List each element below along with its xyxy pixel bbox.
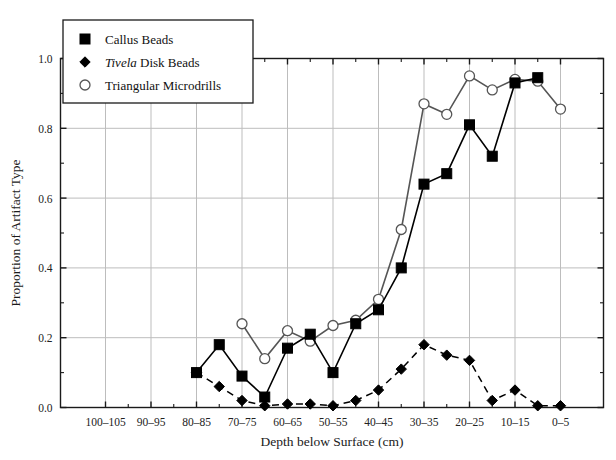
x-tick-label: 10–15 — [501, 416, 530, 428]
data-point-circle — [487, 85, 497, 95]
data-point-diamond — [464, 355, 474, 365]
y-axis: 0.00.20.40.60.81.0 — [38, 53, 603, 414]
data-point-square — [305, 329, 315, 339]
y-tick-label: 1.0 — [38, 53, 53, 65]
x-tick-label: 100–105 — [85, 416, 126, 428]
data-point-diamond — [533, 401, 543, 411]
legend-label: Tivela Disk Beads — [105, 55, 200, 70]
data-point-circle — [465, 71, 475, 81]
data-point-square — [283, 343, 293, 353]
data-point-square — [533, 73, 543, 83]
x-tick-label: 80–85 — [182, 416, 211, 428]
y-axis-title: Proportion of Artifact Type — [8, 160, 23, 307]
data-point-diamond — [487, 395, 497, 405]
gridlines — [61, 59, 604, 408]
y-tick-label: 0.8 — [38, 123, 53, 135]
x-tick-label: 90–95 — [137, 416, 166, 428]
x-tick-label: 70–75 — [228, 416, 257, 428]
axis-titles: Depth below Surface (cm)Proportion of Ar… — [8, 160, 403, 449]
data-point-circle — [419, 99, 429, 109]
series-line — [242, 76, 561, 359]
data-point-diamond — [328, 401, 338, 411]
data-point-circle — [442, 109, 452, 119]
data-point-circle — [556, 104, 566, 114]
series-callus-beads — [192, 73, 543, 402]
data-point-diamond — [351, 395, 361, 405]
data-point-square — [465, 120, 475, 130]
y-tick-label: 0.4 — [38, 262, 53, 274]
x-axis-title: Depth below Surface (cm) — [261, 434, 404, 449]
chart-figure: 0.00.20.40.60.81.0100–10590–9580–8570–75… — [0, 0, 616, 460]
data-point-diamond — [237, 395, 247, 405]
y-tick-label: 0.2 — [38, 332, 53, 344]
y-tick-label: 0.6 — [38, 193, 53, 205]
x-tick-label: 60–65 — [273, 416, 302, 428]
data-point-square — [510, 78, 520, 88]
data-point-square — [351, 319, 361, 329]
data-point-square — [442, 169, 452, 179]
x-tick-label: 20–25 — [455, 416, 484, 428]
data-point-circle — [237, 319, 247, 329]
x-tick-label: 0–5 — [552, 416, 570, 428]
series-line — [197, 78, 538, 397]
data-point-square — [487, 151, 497, 161]
x-tick-label: 50–55 — [319, 416, 348, 428]
data-point-circle — [283, 326, 293, 336]
legend: Callus BeadsTivela Disk BeadsTriangular … — [63, 20, 253, 103]
x-tick-label: 40–45 — [364, 416, 393, 428]
data-point-diamond — [214, 381, 224, 391]
data-point-circle — [80, 80, 90, 90]
data-point-circle — [396, 225, 406, 235]
x-tick-label: 30–35 — [410, 416, 439, 428]
legend-label: Triangular Microdrills — [105, 78, 221, 93]
y-tick-label: 0.0 — [38, 402, 53, 414]
data-point-square — [214, 340, 224, 350]
data-point-square — [80, 34, 90, 44]
data-point-square — [374, 305, 384, 315]
series-triangular-microdrills — [237, 71, 566, 364]
data-point-circle — [260, 354, 270, 364]
data-point-square — [419, 179, 429, 189]
data-point-diamond — [510, 385, 520, 395]
data-point-square — [237, 371, 247, 381]
scatter-line-chart: 0.00.20.40.60.81.0100–10590–9580–8570–75… — [0, 0, 616, 460]
axis-frame — [61, 59, 604, 408]
legend-label: Callus Beads — [105, 32, 173, 47]
x-axis: 100–10590–9580–8570–7560–6550–5540–4530–… — [85, 59, 569, 428]
data-point-square — [396, 263, 406, 273]
data-point-circle — [328, 320, 338, 330]
data-point-diamond — [555, 401, 565, 411]
data-point-diamond — [442, 350, 452, 360]
data-point-square — [328, 368, 338, 378]
